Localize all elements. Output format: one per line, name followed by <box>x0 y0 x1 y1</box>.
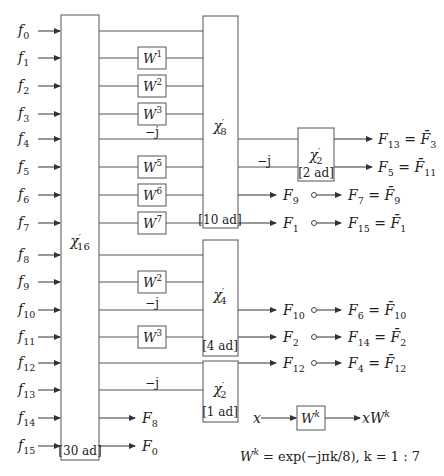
labels: W1W2W3W5W6W7W2W3−j−j−jχ′16[30 ad]χ′8[10 … <box>58 49 436 464</box>
chi16-label: χ′16 <box>69 232 90 252</box>
output-F10: F10 <box>282 302 305 321</box>
chi8-cost: [10 ad] <box>198 213 241 227</box>
input-label-f8: f8 <box>17 246 29 265</box>
input-label-f10: f10 <box>17 301 35 320</box>
blocks <box>61 15 334 460</box>
chi2-2ad-label: χ′2 <box>308 146 322 166</box>
input-label-f0: f0 <box>17 22 29 41</box>
chi4-cost: [4 ad] <box>202 339 238 353</box>
conjugate-node-icon <box>312 221 317 226</box>
output-F6: F6 = F̄10 <box>347 301 406 321</box>
input-label-f5: f5 <box>17 158 29 177</box>
chi8-label: χ′8 <box>212 117 226 137</box>
chi16-cost: [30 ad] <box>58 444 101 458</box>
input-label-f4: f4 <box>17 130 29 149</box>
output-F0: F0 <box>141 438 158 457</box>
legend-input: x <box>253 410 261 426</box>
minus-j-label: −j <box>145 296 159 310</box>
conjugate-node-icon <box>312 361 317 366</box>
chi2-1ad-label: χ′2 <box>212 380 226 400</box>
chi2-2ad-cost: [2 ad] <box>298 166 334 180</box>
output-F2: F2 <box>282 329 299 348</box>
input-label-f6: f6 <box>17 186 29 205</box>
output-F13: F13 = F̄3 <box>377 130 436 150</box>
chi4-label: χ′4 <box>212 286 226 306</box>
conjugate-node-icon <box>312 193 317 198</box>
output-F9: F9 <box>282 187 299 206</box>
input-label-f2: f2 <box>17 77 29 96</box>
chi2-1ad-cost: [1 ad] <box>202 405 238 419</box>
input-label-f1: f1 <box>17 49 29 68</box>
input-label-f7: f7 <box>17 214 29 233</box>
input-label-f9: f9 <box>17 273 29 292</box>
output-F14: F14 = F̄2 <box>347 328 406 348</box>
minus-j-label: −j <box>145 376 159 390</box>
input-label-f12: f12 <box>17 354 35 373</box>
output-F7: F7 = F̄9 <box>347 186 400 206</box>
conjugate-node-icon <box>312 335 317 340</box>
input-labels: f0f1f2f3f4f5f6f7f8f9f10f11f12f13f14f15 <box>17 22 60 456</box>
minus-j-label: −j <box>145 125 159 139</box>
minus-j-label: −j <box>257 154 271 168</box>
fft-diagram: f0f1f2f3f4f5f6f7f8f9f10f11f12f13f14f15 W… <box>0 0 444 476</box>
output-F12: F12 <box>282 355 305 374</box>
output-F1: F1 <box>282 215 299 234</box>
input-label-f13: f13 <box>17 381 35 400</box>
input-label-f11: f11 <box>17 328 35 347</box>
output-F8: F8 <box>141 410 158 429</box>
legend-formula: Wk = exp(−jπk/8), k = 1 : 7 <box>240 447 420 464</box>
legend-output: xWk <box>362 408 390 426</box>
output-F4: F4 = F̄12 <box>347 354 406 374</box>
conjugate-node-icon <box>312 308 317 313</box>
input-label-f3: f3 <box>17 105 29 124</box>
input-label-f14: f14 <box>17 409 35 428</box>
output-F5: F5 = F̄11 <box>377 158 436 178</box>
input-label-f15: f15 <box>17 437 35 456</box>
output-F15: F15 = F̄1 <box>347 214 406 234</box>
